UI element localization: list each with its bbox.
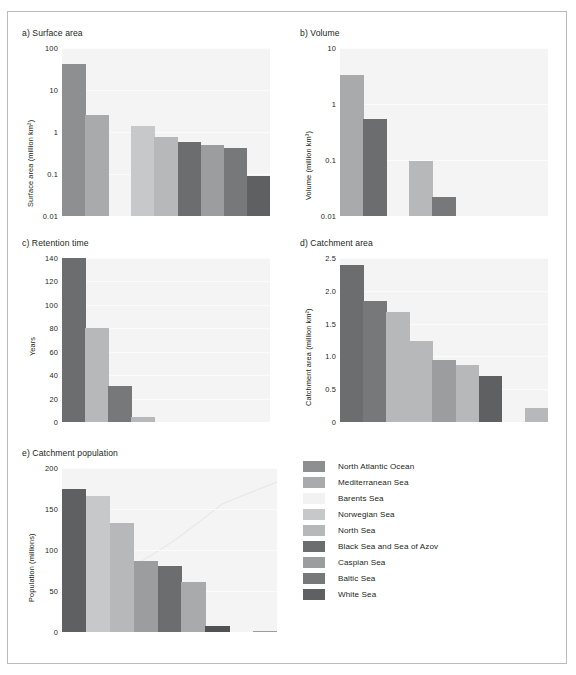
ytick-label: 20 — [49, 394, 58, 403]
legend-item: North Sea — [303, 522, 438, 538]
legend-swatch — [303, 461, 325, 472]
legend-swatch — [303, 541, 325, 552]
legend-label: North Atlantic Ocean — [338, 462, 414, 471]
bar — [131, 417, 155, 422]
legend-label: Mediterranean Sea — [338, 478, 409, 487]
ytick-label: 0.1 — [47, 170, 58, 179]
legend-swatch — [303, 557, 325, 568]
ytick-label: 100 — [45, 546, 58, 555]
panel-d-plot-area — [340, 258, 548, 422]
legend-swatch — [303, 493, 325, 504]
ytick-label: 0 — [54, 628, 58, 637]
legend-item: White Sea — [303, 587, 438, 603]
panel-b-volume: b) Volume Volume (million km³) 1010.10.0… — [300, 28, 550, 227]
panel-a-ytick-labels: 1001010.10.01 — [22, 42, 58, 227]
bar — [62, 64, 86, 216]
ytick-label: 120 — [45, 277, 58, 286]
panel-a-title: a) Surface area — [22, 28, 272, 38]
sea-legend: North Atlantic OceanMediterranean SeaBar… — [303, 458, 438, 603]
bar — [85, 115, 109, 216]
panel-b-ytick-labels: 1010.10.01 — [300, 42, 336, 227]
bar — [409, 341, 433, 422]
panel-a-plot-area — [62, 48, 270, 216]
bar — [154, 137, 178, 216]
bar — [363, 301, 387, 422]
panel-c-plot: Years 020406080100120140 — [22, 252, 272, 437]
gridline — [340, 48, 548, 49]
bar — [224, 148, 248, 216]
legend-item: Black Sea and Sea of Azov — [303, 538, 438, 554]
panel-c-ytick-labels: 020406080100120140 — [22, 252, 58, 437]
ytick-label: 0.01 — [43, 212, 58, 221]
ytick-label: 140 — [45, 254, 58, 263]
ytick-label: 50 — [49, 587, 58, 596]
gridline — [340, 258, 548, 259]
gridline — [62, 258, 270, 259]
gridline — [340, 104, 548, 105]
bar — [158, 566, 182, 632]
bar — [409, 161, 433, 216]
legend-swatch — [303, 509, 325, 520]
ytick-label: 200 — [45, 464, 58, 473]
ytick-label: 1 — [332, 100, 336, 109]
ytick-label: 40 — [49, 371, 58, 380]
ytick-label: 0.5 — [325, 385, 336, 394]
ytick-label: 0.1 — [325, 156, 336, 165]
legend-label: White Sea — [338, 590, 376, 599]
bar — [134, 561, 158, 632]
bar — [62, 258, 86, 422]
legend-swatch — [303, 525, 325, 536]
panel-e-ytick-labels: 050100150200 — [22, 462, 58, 652]
bar — [85, 328, 109, 422]
legend-item: Barents Sea — [303, 490, 438, 506]
panel-d-catchment-area: d) Catchment area Catchment area (millio… — [300, 238, 550, 437]
gridline — [340, 291, 548, 292]
legend-label: Norwegian Sea — [338, 510, 395, 519]
bar — [432, 197, 456, 216]
panel-e-plot: Population (millions) 050100150200 — [22, 462, 282, 652]
gridline — [62, 281, 270, 282]
bar — [340, 75, 364, 216]
bar — [340, 265, 364, 422]
bar — [479, 376, 503, 422]
bar — [525, 408, 548, 422]
panel-e-plot-area — [62, 468, 277, 632]
legend-swatch — [303, 589, 325, 600]
legend-item: Baltic Sea — [303, 571, 438, 587]
bar — [201, 145, 225, 216]
panel-c-retention-time: c) Retention time Years 0204060801001201… — [22, 238, 272, 437]
ytick-label: 1 — [54, 128, 58, 137]
ytick-label: 10 — [49, 86, 58, 95]
panel-a-plot: Surface area (million km²) 1001010.10.01 — [22, 42, 272, 227]
bar — [62, 489, 86, 633]
legend-label: Caspian Sea — [338, 558, 385, 567]
ytick-label: 100 — [45, 44, 58, 53]
ytick-label: 10 — [327, 44, 336, 53]
bar — [386, 312, 410, 422]
bar — [178, 142, 202, 216]
ytick-label: 1.0 — [325, 352, 336, 361]
ytick-label: 0.01 — [321, 212, 336, 221]
panel-d-plot: Catchment area (million km²) 00.51.01.52… — [300, 252, 550, 437]
legend-item: North Atlantic Ocean — [303, 458, 438, 474]
panel-c-plot-area — [62, 258, 270, 422]
legend-item: Mediterranean Sea — [303, 474, 438, 490]
panel-d-ytick-labels: 00.51.01.52.02.5 — [300, 252, 336, 437]
bar — [110, 523, 134, 632]
bar — [205, 626, 229, 632]
legend-label: North Sea — [338, 526, 375, 535]
bar — [456, 365, 480, 422]
ytick-label: 80 — [49, 324, 58, 333]
ytick-label: 100 — [45, 300, 58, 309]
ytick-label: 0 — [332, 418, 336, 427]
bar — [108, 386, 132, 422]
ytick-label: 2.5 — [325, 254, 336, 263]
legend-item: Norwegian Sea — [303, 506, 438, 522]
bar — [363, 119, 387, 216]
ytick-label: 150 — [45, 505, 58, 514]
panel-b-title: b) Volume — [300, 28, 550, 38]
gridline — [62, 90, 270, 91]
panel-c-title: c) Retention time — [22, 238, 272, 248]
panel-b-plot: Volume (million km³) 1010.10.01 — [300, 42, 550, 227]
legend-label: Black Sea and Sea of Azov — [338, 542, 438, 551]
